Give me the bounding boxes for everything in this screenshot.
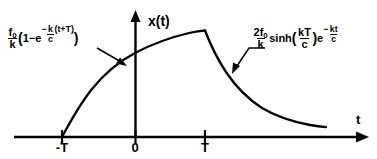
leader-line-left — [97, 48, 127, 66]
formula-left-close-paren: ) — [74, 32, 79, 45]
y-axis-arrowhead — [131, 10, 141, 22]
fraction-kt-over-c: kt c — [329, 25, 339, 44]
y-axis-label: x(t) — [148, 13, 170, 29]
x-tick-label-zero: 0 — [122, 140, 148, 155]
formula-left-f-subscript: 0 — [12, 31, 16, 40]
figure-container: x(t) t -T 0 T f0 k ( 1 − e − k c (t+T — [0, 0, 377, 159]
leader-line-right — [232, 48, 265, 74]
fraction-k-over-c: k c — [47, 25, 54, 44]
formula-left-exp-argument: (t+T) — [55, 25, 74, 34]
formula-left-k: k — [8, 38, 16, 50]
x-axis-label: t — [356, 112, 360, 127]
x-axis-arrowhead — [356, 132, 369, 143]
formula-right-sinh: sinh — [269, 33, 292, 44]
formula-right-k: k — [257, 38, 265, 50]
formula-right-exponent: − kt c — [323, 25, 339, 44]
formula-right-arg-numerator: kT — [297, 27, 312, 38]
formula-left-exponent: − k c (t+T) — [41, 25, 73, 44]
annotation-right-branch-formula: 2f0 k sinh ( kT c ) e − kt c — [252, 27, 339, 50]
curve-rising-branch — [62, 31, 205, 138]
fraction-kT-over-c: kT c — [297, 27, 312, 50]
formula-right-f-subscript: 0 — [263, 31, 267, 40]
formula-left-exp-minus: − — [41, 25, 46, 34]
formula-right-exp-minus: − — [323, 25, 328, 34]
fraction-f0-over-k: f0 k — [8, 27, 18, 50]
annotation-left-branch-formula: f0 k ( 1 − e − k c (t+T) ) — [7, 27, 79, 50]
formula-left-exp-c: c — [47, 34, 54, 44]
formula-right-open-paren: ( — [292, 32, 297, 45]
y-axis — [131, 10, 141, 137]
formula-right-exp-denominator: c — [330, 34, 337, 44]
x-tick-label-negative-T: -T — [48, 140, 76, 155]
formula-right-arg-denominator: c — [300, 38, 308, 50]
formula-left-exp-k: k — [47, 25, 54, 34]
formula-right-exp-numerator: kt — [329, 25, 339, 34]
x-tick-label-T: T — [193, 140, 217, 155]
fraction-2f0-over-k: 2f0 k — [253, 27, 269, 50]
